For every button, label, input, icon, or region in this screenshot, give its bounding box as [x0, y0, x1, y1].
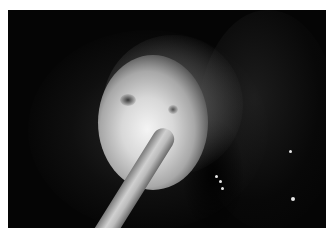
reflection-speck — [219, 180, 222, 183]
reflection-speck — [215, 175, 218, 178]
reflection-speck — [291, 197, 295, 201]
reflection-speck — [221, 187, 224, 190]
endoscopic-photo — [8, 10, 326, 228]
mass-dark-spot-2 — [168, 105, 178, 114]
reflection-speck — [289, 150, 292, 153]
mass-dark-spot — [120, 94, 136, 106]
